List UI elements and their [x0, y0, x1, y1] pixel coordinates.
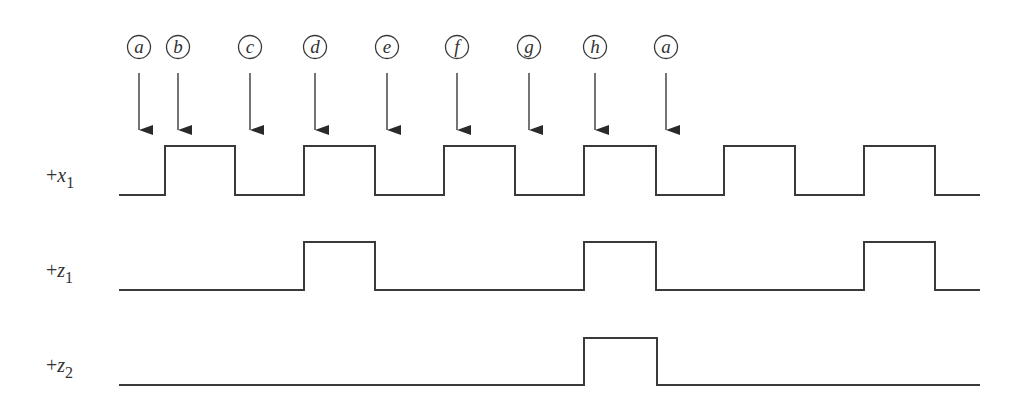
marker-label: a: [134, 36, 144, 57]
timing-diagram: abcdefgha: [0, 0, 1021, 415]
clock-markers: abcdefgha: [128, 36, 678, 131]
signal-label-z2: +z2: [46, 354, 73, 382]
clock-marker-c: c: [239, 36, 262, 131]
signal-label-z1: +z1: [46, 259, 73, 287]
clock-marker-e: e: [376, 36, 399, 131]
marker-label: b: [173, 36, 183, 57]
waveforms: [119, 146, 980, 385]
marker-label: a: [661, 36, 671, 57]
waveform-z2: [119, 338, 980, 385]
waveform-z1: [119, 242, 980, 290]
clock-marker-a: a: [128, 36, 151, 131]
marker-label: h: [590, 36, 600, 57]
marker-label: c: [246, 36, 255, 57]
clock-marker-g: g: [518, 36, 541, 131]
marker-label: g: [524, 36, 534, 57]
clock-marker-f: f: [446, 36, 469, 131]
signal-label-x1: +x1: [46, 164, 74, 192]
waveform-x1: [119, 146, 980, 195]
clock-marker-a: a: [655, 36, 678, 131]
clock-marker-d: d: [304, 36, 327, 131]
marker-label: d: [310, 36, 320, 57]
clock-marker-b: b: [167, 36, 190, 131]
marker-label: f: [454, 36, 462, 57]
marker-label: e: [383, 36, 391, 57]
clock-marker-h: h: [584, 36, 607, 131]
